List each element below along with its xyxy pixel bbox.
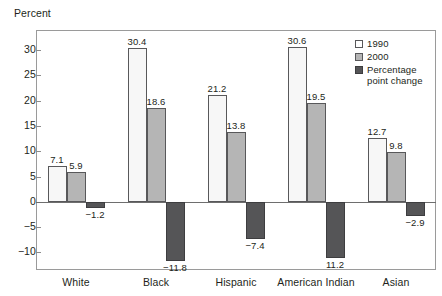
y-tick-mark: [36, 75, 41, 76]
x-axis-category-label: Hispanic: [196, 276, 276, 288]
legend-item: Percentage point change: [355, 64, 423, 86]
bar-value-label: 30.6: [280, 35, 315, 46]
x-axis-category-label: Asian: [356, 276, 436, 288]
legend-item-label: 2000: [367, 51, 389, 62]
bar-value-label: −11.8: [158, 262, 193, 273]
y-tick-mark: [36, 177, 41, 178]
bar: [246, 202, 265, 239]
y-tick-mark: [36, 151, 41, 152]
bar: [166, 202, 185, 262]
y-tick-label: −5: [0, 220, 36, 232]
y-axis-caption: Percent: [14, 7, 51, 19]
legend-item: 1990: [355, 38, 423, 49]
y-tick-label: 25: [0, 68, 36, 80]
bar-value-label: 11.2: [318, 259, 353, 270]
y-tick-mark: [36, 227, 41, 228]
bar-value-label: 13.8: [219, 120, 254, 131]
y-tick-label: 5: [0, 170, 36, 182]
bar: [147, 108, 166, 202]
bar: [128, 48, 147, 202]
chart-legend: 19902000Percentage point change: [355, 38, 423, 88]
bar: [288, 47, 307, 202]
y-tick-mark: [36, 126, 41, 127]
bar: [208, 95, 227, 202]
bar-value-label: −2.9: [398, 217, 433, 228]
bar: [406, 202, 425, 217]
bar: [67, 172, 86, 202]
bar: [387, 152, 406, 202]
white-square-swatch: [355, 40, 363, 48]
y-tick-label: 15: [0, 119, 36, 131]
y-tick-label: −10: [0, 245, 36, 257]
bar-value-label: 12.7: [360, 126, 395, 137]
y-tick-mark: [36, 101, 41, 102]
bar-value-label: 5.9: [59, 160, 94, 171]
bar-value-label: 21.2: [200, 83, 235, 94]
bar: [326, 202, 345, 259]
bar: [227, 132, 246, 202]
bar: [307, 103, 326, 202]
x-axis-category-label: American Indian: [276, 276, 356, 288]
y-tick-mark: [36, 252, 41, 253]
bar-value-label: 18.6: [139, 96, 174, 107]
bar-value-label: −7.4: [238, 240, 273, 251]
bar-value-label: 9.8: [379, 140, 414, 151]
legend-item: 2000: [355, 51, 423, 62]
dark-gray-square-swatch: [355, 66, 363, 74]
x-axis-category-label: Black: [116, 276, 196, 288]
y-tick-label: 20: [0, 94, 36, 106]
y-tick-label: 0: [0, 195, 36, 207]
bar: [48, 166, 67, 202]
y-tick-label: 30: [0, 43, 36, 55]
bar-value-label: −1.2: [78, 209, 113, 220]
bar-value-label: 30.4: [120, 36, 155, 47]
bar: [86, 202, 105, 208]
y-tick-label: 10: [0, 144, 36, 156]
grouped-bar-chart: Percent 302520151050−5−10 7.15.9−1.230.4…: [0, 0, 442, 296]
bar-value-label: 19.5: [299, 91, 334, 102]
legend-item-label: Percentage point change: [367, 64, 423, 86]
x-axis-category-label: White: [36, 276, 116, 288]
light-gray-square-swatch: [355, 53, 363, 61]
y-tick-mark: [36, 50, 41, 51]
legend-item-label: 1990: [367, 38, 389, 49]
